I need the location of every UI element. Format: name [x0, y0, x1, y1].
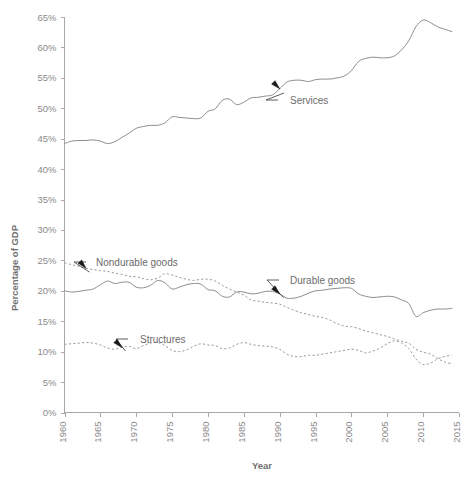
y-tick-label: 50%	[37, 103, 57, 114]
x-tick-label: 1990	[272, 422, 283, 443]
x-tick-label: 2005	[379, 422, 390, 443]
y-tick-label: 35%	[37, 194, 57, 205]
x-tick-label: 1965	[92, 422, 103, 443]
x-tick-label: 1985	[236, 422, 247, 443]
series-label-services: Services	[290, 95, 328, 106]
series-label-nondurable-goods: Nondurable goods	[96, 257, 178, 268]
x-tick-label: 2010	[415, 422, 426, 443]
y-tick-label: 15%	[37, 316, 57, 327]
y-tick-label: 5%	[43, 377, 57, 388]
x-tick-label: 1970	[128, 422, 139, 443]
y-tick-label: 60%	[37, 42, 57, 53]
x-tick-label: 1960	[57, 422, 68, 443]
y-tick-label: 10%	[37, 346, 57, 357]
y-axis-title: Percentage of GDP	[9, 224, 20, 311]
x-tick-label: 1975	[164, 422, 175, 443]
y-tick-label: 30%	[37, 224, 57, 235]
y-tick-label: 65%	[37, 12, 57, 23]
chart-background	[0, 0, 469, 477]
y-tick-label: 40%	[37, 164, 57, 175]
y-tick-label: 55%	[37, 72, 57, 83]
chart-container: 0%5%10%15%20%25%30%35%40%45%50%55%60%65%…	[0, 0, 469, 477]
x-tick-label: 2015	[451, 422, 462, 443]
y-tick-label: 45%	[37, 133, 57, 144]
y-tick-label: 25%	[37, 255, 57, 266]
x-tick-label: 2000	[343, 422, 354, 443]
gdp-composition-line-chart: 0%5%10%15%20%25%30%35%40%45%50%55%60%65%…	[0, 0, 469, 477]
y-tick-label: 20%	[37, 285, 57, 296]
x-axis-title: Year	[252, 460, 272, 471]
series-label-structures: Structures	[140, 334, 186, 345]
x-tick-label: 1980	[200, 422, 211, 443]
x-tick-label: 1995	[308, 422, 319, 443]
series-label-durable-goods: Durable goods	[290, 275, 355, 286]
y-tick-label: 0%	[43, 407, 57, 418]
